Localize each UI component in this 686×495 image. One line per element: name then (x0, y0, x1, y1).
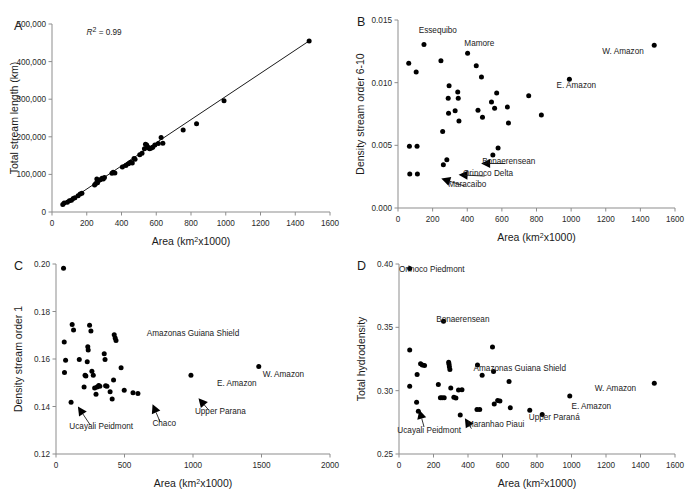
data-point (489, 100, 494, 105)
y-tick-label: 0.005 (372, 141, 393, 150)
x-tick-label: 600 (149, 219, 163, 228)
point-label: Chaco (152, 419, 176, 428)
data-point (91, 373, 96, 378)
data-point (652, 43, 657, 48)
y-axis-title: Total stream length (km) (8, 62, 20, 175)
data-point (87, 323, 92, 328)
data-point (474, 63, 479, 68)
point-label: Maracaibo (448, 180, 487, 189)
y-tick-label: 100,000 (16, 170, 46, 179)
x-tick-label: 1600 (666, 215, 685, 224)
x-tick-label: 1200 (597, 461, 616, 470)
x-tick-label: 0 (397, 461, 402, 470)
panel-d: D0.250.300.350.4002004006008001000120014… (343, 248, 686, 495)
data-point (455, 90, 460, 95)
data-point (479, 75, 484, 80)
data-point (86, 347, 91, 352)
data-point (194, 121, 199, 126)
data-point (475, 108, 480, 113)
data-point (456, 118, 461, 123)
data-point (130, 390, 135, 395)
data-point (652, 381, 657, 386)
data-point (446, 96, 451, 101)
data-point (490, 344, 495, 349)
x-axis-title: Area (km2x1000) (497, 231, 576, 243)
x-tick-label: 1000 (562, 461, 581, 470)
point-label: E. Amazon (217, 379, 257, 388)
data-point (567, 393, 572, 398)
panel-b: B0.0000.0050.0100.0150200400600800100012… (343, 0, 686, 247)
data-point (110, 396, 115, 401)
data-point (82, 385, 87, 390)
x-axis-title: Area (km2x1000) (152, 235, 231, 247)
x-tick-label: 200 (80, 219, 94, 228)
y-tick-label: 0.010 (372, 79, 393, 88)
data-point (122, 388, 127, 393)
data-point (421, 42, 426, 47)
data-point (83, 374, 88, 379)
data-point (507, 379, 512, 384)
data-point (222, 98, 227, 103)
point-label: E. Amazon (572, 402, 612, 411)
point-label: W. Amazon (595, 384, 637, 393)
data-point (102, 175, 107, 180)
point-label: Bonaerensean (436, 315, 490, 324)
data-point (526, 93, 531, 98)
point-label: Orinoco Delta (463, 169, 514, 178)
data-point (181, 128, 186, 133)
data-point (156, 141, 161, 146)
annotation-arrowhead (78, 407, 87, 417)
data-point (111, 377, 116, 382)
x-tick-label: 800 (184, 219, 198, 228)
x-tick-label: 1000 (217, 219, 236, 228)
x-tick-label: 500 (118, 461, 132, 470)
x-tick-label: 1600 (321, 219, 340, 228)
y-axis-title: Density stream order 1 (12, 306, 24, 412)
y-tick-label: 200,000 (16, 133, 46, 142)
y-tick-label: 0.000 (372, 204, 393, 213)
data-point (159, 135, 164, 140)
x-tick-label: 600 (495, 215, 509, 224)
data-point (94, 392, 99, 397)
y-tick-label: 0.16 (34, 355, 50, 364)
data-point (307, 38, 312, 43)
data-point (407, 144, 412, 149)
data-point (414, 400, 419, 405)
figure-container: A0100,000200,000300,000400,000500,000020… (0, 0, 686, 495)
data-point (506, 121, 511, 126)
data-point (112, 170, 117, 175)
data-point (407, 384, 412, 389)
x-tick-label: 1000 (184, 461, 203, 470)
y-tick-label: 0.12 (34, 450, 50, 459)
data-point (97, 384, 102, 389)
x-tick-label: 600 (496, 461, 510, 470)
data-point (508, 405, 513, 410)
data-point (415, 144, 420, 149)
point-label: Amazonas Guiana Shield (147, 329, 240, 338)
data-point (62, 370, 67, 375)
y-tick-label: 0.30 (377, 387, 393, 396)
x-tick-label: 400 (461, 461, 475, 470)
data-point (465, 51, 470, 56)
data-point (438, 58, 443, 63)
data-point (406, 61, 411, 66)
data-point (133, 157, 138, 162)
data-point (108, 389, 113, 394)
data-point (494, 90, 499, 95)
point-label: Mamore (464, 39, 494, 48)
x-tick-label: 400 (460, 215, 474, 224)
point-label: W. Amazon (263, 370, 305, 379)
panel-a: A0100,000200,000300,000400,000500,000020… (0, 0, 343, 247)
point-label: Maranhao Piaui (467, 420, 525, 429)
point-label: Bonaerensean (482, 157, 536, 166)
x-tick-label: 400 (115, 219, 129, 228)
data-point (492, 106, 497, 111)
data-point (415, 372, 420, 377)
data-point (480, 115, 485, 120)
x-tick-label: 1500 (252, 461, 271, 470)
y-tick-label: 0.14 (34, 403, 50, 412)
data-point (442, 395, 447, 400)
point-label: Upper Paraná (529, 413, 580, 422)
data-point (477, 407, 482, 412)
data-point (70, 322, 75, 327)
